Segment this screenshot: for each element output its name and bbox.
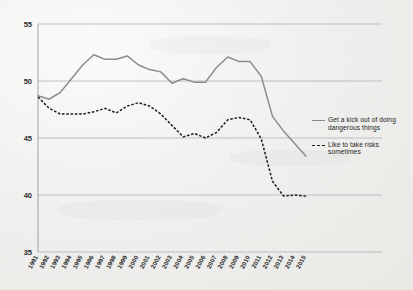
legend-item-like-to-take-risks: Like to take risks sometimes	[312, 141, 410, 157]
legend-label: Get a kick out of doing dangerous things	[328, 116, 410, 132]
x-tick-label: 2010	[238, 254, 251, 270]
legend-line-dashed-icon	[312, 141, 325, 150]
y-tick-label: 35	[24, 248, 32, 257]
legend-label: Like to take risks sometimes	[328, 141, 410, 157]
y-axis-tick-labels: 3540455055	[24, 20, 32, 257]
data-series-layer	[38, 55, 306, 196]
y-tick-label: 55	[24, 20, 32, 29]
y-tick-label: 50	[24, 77, 32, 86]
legend-item-get-a-kick: Get a kick out of doing dangerous things	[312, 116, 410, 132]
x-tick-label: 2015	[294, 254, 307, 270]
series-line-1	[38, 55, 306, 156]
y-tick-label: 45	[24, 134, 32, 143]
series-line-2	[38, 97, 306, 196]
chart-legend: Get a kick out of doing dangerous things…	[312, 116, 410, 165]
y-tick-label: 40	[24, 191, 32, 200]
x-axis-tick-labels: 1991199219931994199519961997199819992000…	[26, 254, 307, 270]
legend-line-solid-icon	[312, 116, 325, 125]
